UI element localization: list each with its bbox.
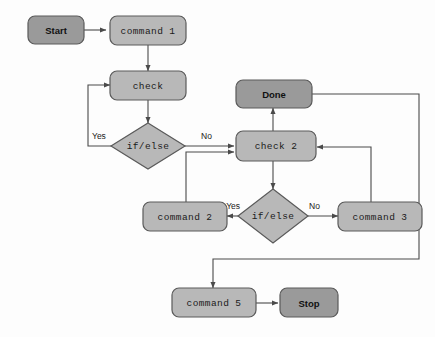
edge-command2-to-check2 (186, 152, 234, 202)
node-start[interactable]: Start (28, 16, 84, 44)
node-command2-label: command 2 (158, 212, 213, 223)
node-command2[interactable]: command 2 (143, 202, 227, 231)
node-check2[interactable]: check 2 (236, 131, 316, 161)
node-ifelse1[interactable]: if/else (111, 123, 185, 169)
edge-label-ifelse1-yes: Yes (92, 131, 106, 141)
node-start-label: Start (45, 25, 67, 36)
node-command3[interactable]: command 3 (338, 202, 422, 231)
node-check-label: check (133, 81, 164, 92)
edge-done-to-command5 (213, 94, 419, 288)
node-stop[interactable]: Stop (280, 288, 338, 317)
node-command1[interactable]: command 1 (110, 16, 186, 45)
node-ifelse2-label: if/else (252, 211, 295, 222)
flowchart-canvas: Yes No Yes No Start command 1 check if/e… (0, 0, 435, 337)
node-command1-label: command 1 (121, 26, 176, 37)
node-ifelse1-label: if/else (127, 141, 170, 152)
node-check[interactable]: check (110, 71, 186, 100)
node-command3-label: command 3 (353, 212, 408, 223)
flowchart-svg: Yes No Yes No Start command 1 check if/e… (0, 0, 435, 337)
node-done-label: Done (262, 89, 286, 100)
node-check2-label: check 2 (255, 141, 298, 152)
edge-label-ifelse1-no: No (201, 131, 212, 141)
node-command5-label: command 5 (187, 298, 242, 309)
node-done[interactable]: Done (236, 80, 312, 108)
edge-label-ifelse2-no: No (309, 201, 320, 211)
edge-label-ifelse2-yes: Yes (226, 201, 240, 211)
node-ifelse2[interactable]: if/else (238, 189, 308, 243)
node-stop-label: Stop (298, 298, 319, 309)
edge-command3-to-check2 (317, 147, 371, 202)
node-command5[interactable]: command 5 (172, 288, 256, 317)
